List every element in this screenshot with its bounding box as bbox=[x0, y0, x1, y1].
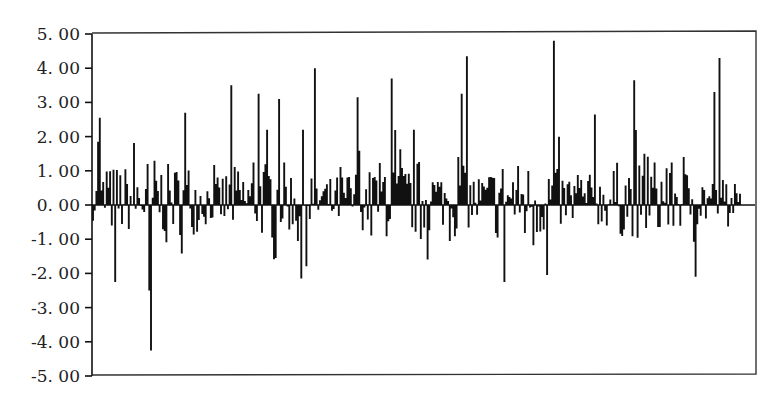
y-tick-label: 4. 00 bbox=[37, 58, 80, 78]
spike-bar-chart: 5. 004. 003. 002. 001. 000. 00-1. 00-2. … bbox=[0, 0, 776, 407]
y-tick-label: 2. 00 bbox=[37, 127, 80, 147]
y-tick-label: 3. 00 bbox=[37, 92, 80, 112]
y-tick-label: 5. 00 bbox=[37, 24, 80, 44]
y-tick-label: -3. 00 bbox=[31, 298, 80, 318]
y-tick-label: -1. 00 bbox=[31, 229, 80, 249]
data-bars bbox=[93, 41, 740, 351]
y-tick-label: -4. 00 bbox=[31, 332, 80, 352]
y-tick-label: 1. 00 bbox=[37, 161, 80, 181]
chart: 5. 004. 003. 002. 001. 000. 00-1. 00-2. … bbox=[0, 0, 776, 407]
y-tick-label: -2. 00 bbox=[31, 263, 80, 283]
y-tick-label: 0. 00 bbox=[37, 195, 80, 215]
y-tick-label: -5. 00 bbox=[31, 366, 80, 386]
y-axis: 5. 004. 003. 002. 001. 000. 00-1. 00-2. … bbox=[31, 24, 92, 386]
